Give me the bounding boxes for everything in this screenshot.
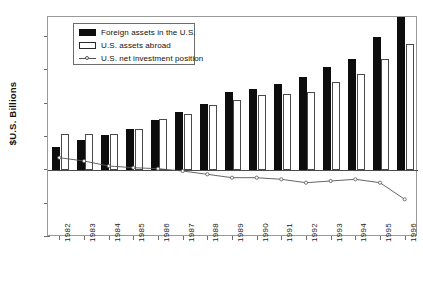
bar-foreign-assets [373,37,381,170]
x-tick-mark [232,236,233,240]
bar-us-assets-abroad [258,95,266,170]
x-tick-label: 1991 [285,223,294,242]
legend-label: U.S. assets abroad [101,41,171,50]
bar-foreign-assets [200,104,208,171]
x-tick-label: 1987 [187,223,196,242]
bar-foreign-assets [52,147,60,170]
bar-us-assets-abroad [184,114,192,171]
bar-us-assets-abroad [307,92,315,170]
x-tick-label: 1986 [162,223,171,242]
bar-us-assets-abroad [135,129,143,171]
legend-item-net-investment-position: U.S. net investment position [79,52,203,64]
bar-foreign-assets [323,67,331,170]
bar-foreign-assets [77,140,85,170]
black-square-icon [79,29,96,36]
x-tick-label: 1984 [113,223,122,242]
zero-baseline [48,170,418,171]
bar-foreign-assets [126,129,134,171]
line-marker-icon [79,55,96,62]
x-tick-mark [405,236,406,240]
bar-us-assets-abroad [283,94,291,171]
bar-us-assets-abroad [381,59,389,171]
legend-label: Foreign assets in the U.S. [101,28,196,37]
bar-foreign-assets [397,17,405,170]
y-tick-mark [44,236,50,237]
bar-us-assets-abroad [357,74,365,171]
bar-foreign-assets [175,112,183,170]
x-tick-mark [183,236,184,240]
bar-foreign-assets [274,84,282,171]
legend-label: U.S. net investment position [101,54,203,63]
bar-us-assets-abroad [209,105,217,170]
bar-foreign-assets [348,59,356,171]
x-tick-label: 1995 [384,223,393,242]
x-tick-label: 1990 [261,223,270,242]
x-tick-label: 1996 [409,223,418,242]
x-tick-label: 1985 [137,223,146,242]
x-tick-mark [257,236,258,240]
bar-foreign-assets [151,120,159,170]
x-tick-mark [158,236,159,240]
legend-item-us-assets-abroad: U.S. assets abroad [79,39,171,51]
x-tick-mark [133,236,134,240]
bar-us-assets-abroad [233,100,241,170]
legend-item-foreign-assets: Foreign assets in the U.S. [79,26,196,38]
x-tick-mark [84,236,85,240]
x-tick-label: 1983 [88,223,97,242]
bar-foreign-assets [225,92,233,170]
x-tick-mark [207,236,208,240]
bar-foreign-assets [101,135,109,170]
x-tick-label: 1989 [236,223,245,242]
bar-us-assets-abroad [159,119,167,171]
x-tick-mark [306,236,307,240]
legend: Foreign assets in the U.S. U.S. assets a… [73,23,195,65]
x-tick-mark [59,236,60,240]
x-tick-label: 1982 [63,223,72,242]
x-tick-mark [380,236,381,240]
bar-us-assets-abroad [332,82,340,170]
x-tick-mark [281,236,282,240]
x-tick-mark [355,236,356,240]
investment-position-chart: $U.S. Billions $4,000$3,000$2,000$1,000$… [0,0,423,284]
bar-us-assets-abroad [61,134,69,171]
y-axis-title: $U.S. Billions [7,64,18,164]
x-tick-label: 1994 [359,223,368,242]
bar-us-assets-abroad [110,134,118,171]
x-tick-label: 1988 [211,223,220,242]
x-tick-label: 1993 [335,223,344,242]
x-tick-mark [109,236,110,240]
bar-us-assets-abroad [85,134,93,171]
bar-us-assets-abroad [406,44,414,171]
bar-foreign-assets [249,89,257,171]
x-tick-mark [331,236,332,240]
x-tick-label: 1992 [310,223,319,242]
white-square-icon [79,42,96,49]
bar-foreign-assets [299,77,307,170]
